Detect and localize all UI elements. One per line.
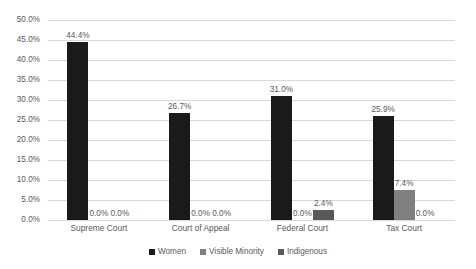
legend-swatch-icon bbox=[200, 249, 206, 255]
bar-chart: 0.0%5.0%10.0%15.0%20.0%25.0%30.0%35.0%40… bbox=[0, 0, 476, 269]
bar-value-label: 44.4% bbox=[56, 32, 100, 40]
bar-indigenous[interactable] bbox=[313, 210, 334, 220]
y-tick-label: 35.0% bbox=[17, 76, 40, 84]
bar-group: 44.4%0.0%0.0% bbox=[48, 20, 150, 220]
y-tick-label: 40.0% bbox=[17, 56, 40, 64]
y-axis: 0.0%5.0%10.0%15.0%20.0%25.0%30.0%35.0%40… bbox=[0, 0, 44, 269]
x-tick-label: Supreme Court bbox=[44, 224, 154, 233]
y-tick-label: 10.0% bbox=[17, 176, 40, 184]
bar-group: 31.0%0.0%2.4% bbox=[252, 20, 354, 220]
x-axis: Supreme CourtCourt of AppealFederal Cour… bbox=[48, 224, 455, 240]
legend-label: Indigenous bbox=[287, 248, 327, 256]
bar-group: 25.9%7.4%0.0% bbox=[353, 20, 455, 220]
legend-swatch-icon bbox=[149, 249, 155, 255]
bar-women[interactable] bbox=[271, 96, 292, 220]
legend-label: Women bbox=[158, 248, 186, 256]
y-tick-label: 25.0% bbox=[17, 116, 40, 124]
bar-value-label: 0.0% bbox=[98, 210, 142, 218]
plot-area: 44.4%0.0%0.0%26.7%0.0%0.0%31.0%0.0%2.4%2… bbox=[48, 20, 455, 220]
bar-value-label: 7.4% bbox=[382, 180, 426, 188]
x-tick-label: Court of Appeal bbox=[146, 224, 256, 233]
bar-women[interactable] bbox=[373, 116, 394, 220]
legend-item[interactable]: Indigenous bbox=[278, 248, 327, 256]
bar-value-label: 25.9% bbox=[361, 106, 405, 114]
x-tick-label: Tax Court bbox=[349, 224, 459, 233]
y-tick-label: 50.0% bbox=[17, 16, 40, 24]
bar-value-label: 0.0% bbox=[403, 210, 447, 218]
legend-item[interactable]: Women bbox=[149, 248, 186, 256]
y-tick-label: 30.0% bbox=[17, 96, 40, 104]
bar-value-label: 26.7% bbox=[158, 103, 202, 111]
gridline bbox=[48, 220, 455, 221]
chart-legend: WomenVisible MinorityIndigenous bbox=[0, 245, 476, 259]
y-tick-label: 45.0% bbox=[17, 36, 40, 44]
y-tick-label: 15.0% bbox=[17, 156, 40, 164]
bar-value-label: 2.4% bbox=[301, 200, 345, 208]
bar-value-label: 31.0% bbox=[259, 86, 303, 94]
legend-swatch-icon bbox=[278, 249, 284, 255]
bar-group: 26.7%0.0%0.0% bbox=[150, 20, 252, 220]
legend-label: Visible Minority bbox=[209, 248, 264, 256]
y-tick-label: 0.0% bbox=[21, 216, 40, 224]
y-tick-label: 5.0% bbox=[21, 196, 40, 204]
x-tick-label: Federal Court bbox=[247, 224, 357, 233]
bar-women[interactable] bbox=[67, 42, 88, 220]
legend-item[interactable]: Visible Minority bbox=[200, 248, 264, 256]
bar-women[interactable] bbox=[169, 113, 190, 220]
bar-value-label: 0.0% bbox=[200, 210, 244, 218]
y-tick-label: 20.0% bbox=[17, 136, 40, 144]
